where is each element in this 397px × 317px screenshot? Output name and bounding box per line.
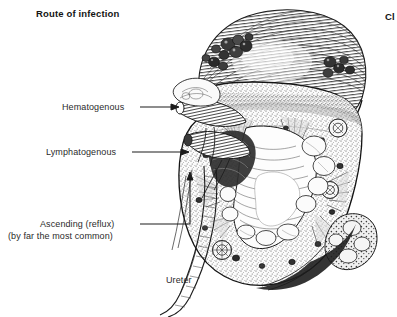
hematogenous-leader [140,104,179,110]
label-hematogenous: Hematogenous [62,102,124,112]
label-ureter: Ureter [166,275,192,285]
label-ascending-note: (by far the most common) [8,231,113,241]
chapter-marker: Cl [385,11,397,22]
label-lymphatogenous: Lymphatogenous [46,147,116,157]
label-ascending-reflux: Ascending (reflux) [40,219,114,229]
figure-title: Route of infection [36,8,119,19]
kidney-illustration [0,0,397,317]
